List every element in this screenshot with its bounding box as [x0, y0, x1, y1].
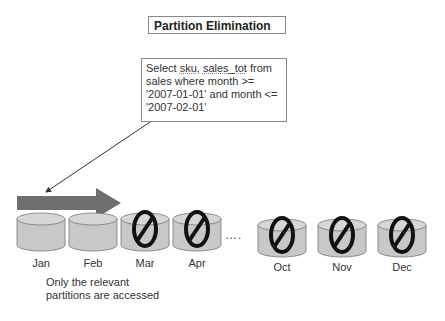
partition-cylinder-icon — [258, 218, 306, 257]
partition-label: Apr — [172, 257, 222, 269]
note-text: Only the relevant partitions are accesse… — [46, 276, 159, 302]
partition-label: Nov — [317, 261, 367, 273]
partition-cylinder-icon — [378, 218, 426, 257]
partition-label: Mar — [120, 257, 170, 269]
partition-label: Jan — [16, 257, 66, 269]
partition-cylinder-icon — [17, 213, 65, 251]
ellipsis: …. — [225, 228, 242, 242]
note-line-2: partitions are accessed — [46, 289, 159, 302]
pointer-arrow-icon — [46, 122, 150, 192]
partition-cylinder-icon — [69, 213, 117, 251]
note-line-1: Only the relevant — [46, 276, 159, 289]
partition-label: Dec — [377, 261, 427, 273]
partition-label: Feb — [68, 257, 118, 269]
partition-label: Oct — [257, 261, 307, 273]
partition-cylinder-icon — [121, 212, 169, 251]
partition-cylinder-icon — [173, 212, 221, 251]
partition-cylinder-icon — [318, 218, 366, 257]
